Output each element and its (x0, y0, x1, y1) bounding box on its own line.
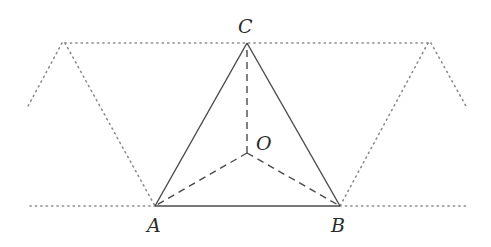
side-bc (247, 43, 340, 206)
dotted-left-outer-slant (27, 43, 62, 108)
label-b: B (330, 214, 345, 236)
dotted-right-inner-slant (340, 43, 428, 206)
point-labels: C O A B (145, 15, 345, 236)
label-c: C (238, 15, 253, 37)
dotted-right-outer-slant (431, 43, 467, 108)
segment-ob (247, 153, 340, 206)
center-to-vertex-segments (155, 43, 340, 206)
segment-oa (155, 153, 247, 206)
side-ca (155, 43, 247, 206)
dotted-left-inner-slant (65, 43, 155, 206)
label-o: O (256, 132, 272, 154)
triangle-diagram: C O A B (0, 0, 491, 247)
label-a: A (145, 214, 161, 236)
